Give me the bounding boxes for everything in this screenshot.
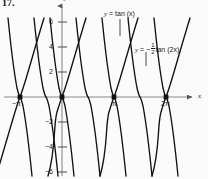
graph-plot xyxy=(0,0,208,179)
figure-container: 17. xyxy=(0,0,208,179)
curve1-body: tan (x) xyxy=(115,10,135,17)
curve2-denominator: 2 xyxy=(151,49,155,55)
y-tick-label-neg2: −2 xyxy=(45,118,53,125)
curve-label-neg-half-tan-2x: y = −12tan (2x) xyxy=(135,42,179,55)
x-tick-label-neg-pi: −π xyxy=(12,100,21,107)
curve-label-tan-x: y = tan (x) xyxy=(104,10,135,18)
curve2-equals: = − xyxy=(138,46,150,53)
curve2-numerator: 1 xyxy=(151,42,155,49)
y-tick-label-neg6: −6 xyxy=(45,168,53,175)
y-tick-label-6: 6 xyxy=(49,18,53,25)
y-tick-label-neg4: −4 xyxy=(45,143,53,150)
x-tick-label-pi: π xyxy=(112,100,117,107)
curve2-body: tan (2x) xyxy=(156,46,180,53)
y-tick-label-2: 2 xyxy=(49,68,53,75)
x-tick-label-2pi: 2π xyxy=(161,100,170,107)
curve1-equals: = xyxy=(107,10,115,17)
y-axis-label: y xyxy=(64,0,67,2)
y-tick-label-4: 4 xyxy=(49,43,53,50)
curve2-fraction: 12 xyxy=(151,42,155,55)
x-axis-label: x xyxy=(198,92,201,100)
